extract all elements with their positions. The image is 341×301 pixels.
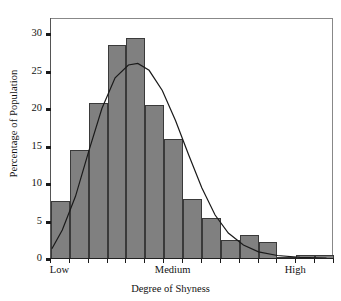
normal-curve-overlay <box>51 19 334 260</box>
x-axis-tick <box>163 259 164 263</box>
y-axis-tick <box>46 33 51 36</box>
y-axis-tick-label: 10 <box>16 178 42 188</box>
y-axis-tick <box>46 146 51 149</box>
x-axis-tick <box>50 259 51 263</box>
x-axis-tick <box>258 259 259 263</box>
x-axis-line <box>50 258 334 259</box>
y-axis-tick <box>46 183 51 186</box>
x-axis-tick <box>276 259 277 263</box>
x-axis-tick <box>107 259 108 263</box>
x-axis-tick <box>333 259 334 263</box>
y-axis-tick <box>46 221 51 224</box>
y-axis-tick-label: 20 <box>16 103 42 113</box>
y-axis-tick-label: 0 <box>16 253 42 263</box>
x-axis-tick-label: High <box>265 264 325 275</box>
y-axis-tick-label: 15 <box>16 141 42 151</box>
x-axis-tick <box>69 259 70 263</box>
plot-area <box>50 18 333 259</box>
x-axis-tick <box>220 259 221 263</box>
x-axis-tick <box>314 259 315 263</box>
y-axis-tick <box>46 71 51 74</box>
x-axis-title: Degree of Shyness <box>0 283 341 294</box>
x-axis-tick <box>201 259 202 263</box>
x-axis-tick <box>239 259 240 263</box>
x-axis-tick <box>144 259 145 263</box>
x-axis-tick-label: Medium <box>143 264 203 275</box>
y-axis-tick-label: 30 <box>16 28 42 38</box>
y-axis-tick <box>46 108 51 111</box>
x-axis-tick <box>295 259 296 263</box>
y-axis-tick-label: 25 <box>16 66 42 76</box>
x-axis-tick <box>88 259 89 263</box>
y-axis-tick-label: 5 <box>16 216 42 226</box>
x-axis-tick-label: Low <box>29 264 89 275</box>
x-axis-tick <box>125 259 126 263</box>
x-axis-tick <box>182 259 183 263</box>
chart-figure: Percentage of Population 051015202530 Lo… <box>0 0 341 301</box>
